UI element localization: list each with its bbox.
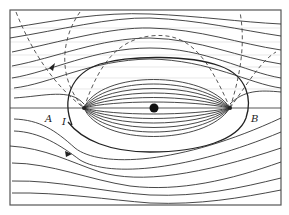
upper-streamlines (10, 14, 281, 104)
lower-streamlines (10, 118, 281, 203)
left-stagnation-point (82, 106, 86, 110)
dashed-curves (16, 12, 276, 108)
plot-frame (10, 10, 281, 205)
right-stagnation-point (228, 106, 232, 110)
label-i: I (61, 116, 67, 127)
label-b: B (250, 113, 258, 124)
streamline-diagram: A I B (0, 0, 289, 215)
central-body (150, 104, 159, 113)
label-a: A (44, 113, 52, 124)
